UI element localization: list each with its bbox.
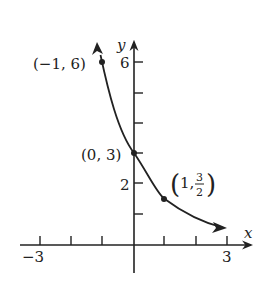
decay-curve <box>101 55 225 228</box>
y-tick-label-6: 6 <box>120 54 130 72</box>
svg-text:): ) <box>206 169 216 199</box>
pt3-numerator: 3 <box>196 171 203 184</box>
y-axis-label: y <box>116 36 126 54</box>
exponential-graph: y x −3 3 6 2 (−1, 6) (0, 3) ( 1, 3 2 ) <box>0 0 262 291</box>
point-0-3 <box>131 150 137 156</box>
x-tick-label-3: 3 <box>222 248 232 266</box>
pt3-x: 1, <box>180 174 194 192</box>
svg-text:(: ( <box>170 169 180 199</box>
y-ticks <box>134 62 143 214</box>
point-1-1.5 <box>161 196 167 202</box>
curve-arrow-right <box>212 222 227 233</box>
curve-arrow-top <box>92 42 103 55</box>
x-tick-label-neg3: −3 <box>22 248 44 266</box>
y-tick-label-2: 2 <box>120 176 130 194</box>
x-axis-label: x <box>244 224 253 242</box>
point-label-1-3halves: ( 1, 3 2 ) <box>170 169 216 199</box>
point-neg1-6 <box>99 59 105 65</box>
point-label-0-3: (0, 3) <box>81 146 121 164</box>
point-label-neg1-6: (−1, 6) <box>33 55 86 73</box>
pt3-denominator: 2 <box>196 186 203 199</box>
